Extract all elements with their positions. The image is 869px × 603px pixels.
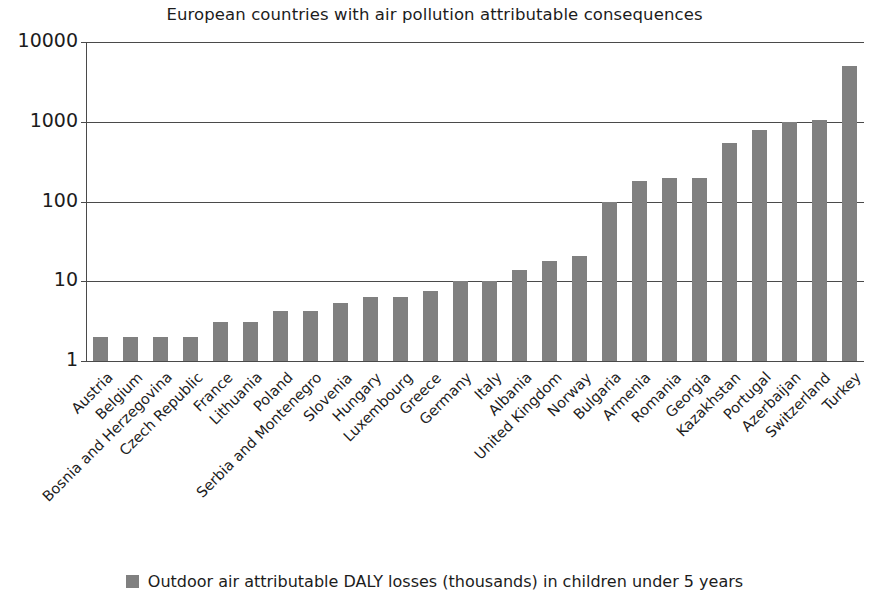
y-axis-tick-label: 1 (0, 350, 78, 369)
gridline (86, 202, 864, 203)
bar[interactable] (722, 143, 737, 361)
bar[interactable] (243, 322, 258, 361)
bar[interactable] (423, 291, 438, 361)
gridline (86, 361, 864, 362)
gridline (86, 281, 864, 282)
bar[interactable] (782, 122, 797, 361)
bar[interactable] (752, 130, 767, 361)
bar[interactable] (542, 261, 557, 361)
bar[interactable] (482, 281, 497, 361)
bar[interactable] (602, 202, 617, 362)
bar[interactable] (453, 281, 468, 361)
bar[interactable] (632, 181, 647, 361)
bar[interactable] (93, 337, 108, 361)
y-axis-tick-label: 10 (0, 270, 78, 289)
bar[interactable] (153, 337, 168, 361)
legend-label: Outdoor air attributable DALY losses (th… (148, 572, 743, 591)
bar[interactable] (303, 311, 318, 361)
bar[interactable] (333, 303, 348, 361)
bar[interactable] (812, 120, 827, 361)
chart-title: European countries with air pollution at… (0, 5, 869, 24)
gridline (86, 42, 864, 43)
bar[interactable] (512, 270, 527, 361)
y-axis-tick-label: 10000 (0, 31, 78, 50)
bar[interactable] (123, 337, 138, 361)
legend: Outdoor air attributable DALY losses (th… (0, 572, 869, 591)
plot-area (86, 42, 864, 361)
bar[interactable] (183, 337, 198, 361)
y-axis-tick-labels: 110100100010000 (0, 0, 78, 603)
bar-chart: European countries with air pollution at… (0, 0, 869, 603)
gridline (86, 122, 864, 123)
bar[interactable] (662, 178, 677, 362)
bar[interactable] (363, 297, 378, 361)
y-axis-tick-label: 100 (0, 191, 78, 210)
bar[interactable] (273, 311, 288, 361)
bar[interactable] (842, 66, 857, 361)
bar[interactable] (692, 178, 707, 362)
bar[interactable] (213, 322, 228, 361)
y-axis-tick-label: 1000 (0, 111, 78, 130)
bar[interactable] (572, 256, 587, 361)
bar[interactable] (393, 297, 408, 361)
legend-swatch-icon (126, 575, 139, 588)
